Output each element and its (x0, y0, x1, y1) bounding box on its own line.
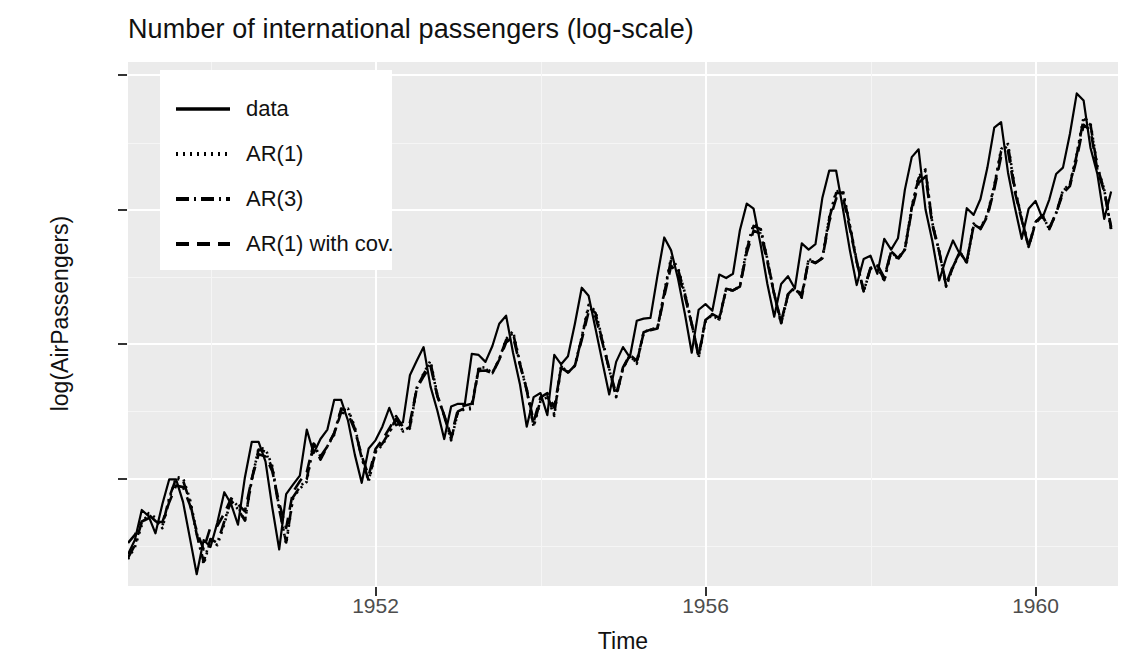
y-tick-mark (118, 209, 127, 211)
legend-item: AR(1) with cov. (174, 221, 380, 266)
legend-label: AR(1) with cov. (246, 231, 394, 257)
x-tick-label: 1952 (352, 594, 399, 618)
y-axis-title: log(AirPassengers) (47, 184, 74, 444)
chart-legend: dataAR(1)AR(3)AR(1) with cov. (160, 70, 392, 270)
y-tick-mark (118, 478, 127, 480)
legend-item: AR(3) (174, 176, 380, 221)
y-tick-mark (118, 343, 127, 345)
legend-key-dashdot-icon (174, 187, 232, 211)
legend-key-solid-icon (174, 97, 232, 121)
legend-label: data (246, 96, 289, 122)
chart-title: Number of international passengers (log-… (128, 14, 694, 45)
y-tick-mark (118, 74, 127, 76)
x-axis-title: Time (128, 628, 1118, 655)
x-tick-mark (705, 587, 707, 596)
x-tick-mark (1035, 587, 1037, 596)
x-tick-mark (375, 587, 377, 596)
legend-item: data (174, 86, 380, 131)
chart-figure: Number of international passengers (log-… (0, 0, 1132, 667)
x-tick-label: 1956 (682, 594, 729, 618)
legend-key-dashed-icon (174, 232, 232, 256)
x-tick-label: 1960 (1012, 594, 1059, 618)
legend-label: AR(3) (246, 186, 303, 212)
legend-label: AR(1) (246, 141, 303, 167)
legend-item: AR(1) (174, 131, 380, 176)
legend-key-dotted-icon (174, 142, 232, 166)
